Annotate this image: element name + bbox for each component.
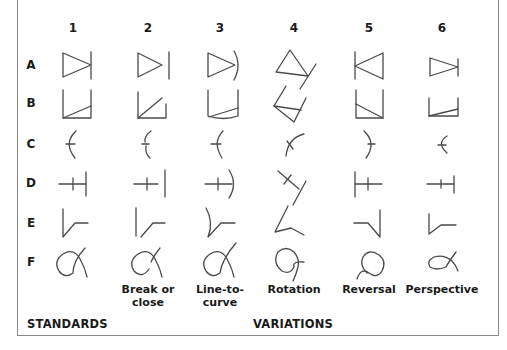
shape-e4-angle-rotated-icon [264, 204, 324, 244]
caption-reversal: Reversal [329, 283, 409, 296]
shape-f2-loop-break-icon [118, 243, 178, 283]
section-label-standards: STANDARDS [27, 317, 108, 331]
column-header-3: 3 [205, 21, 235, 35]
shape-b4-box-diagonal-rotated-icon [264, 84, 324, 124]
shape-c4-arc-tick-rotated-icon [264, 125, 324, 165]
shape-a3-triangle-curve-icon [190, 46, 250, 86]
shape-d4-cross-bar-rotated-icon [264, 164, 324, 204]
caption-break-or-close: Break or close [108, 283, 188, 309]
caption-line: Line-to- [180, 283, 260, 296]
shape-b1-box-diagonal-icon [43, 84, 103, 124]
section-label-variations: VARIATIONS [253, 317, 333, 331]
row-header-f: F [24, 255, 38, 269]
shape-b2-box-diagonal-break-icon [118, 84, 178, 124]
shape-c6-arc-tick-perspective-icon [412, 125, 472, 165]
row-header-b: B [24, 96, 38, 110]
shape-c3-arc-tick-curve-icon [190, 125, 250, 165]
shape-c2-arc-tick-break-icon [118, 125, 178, 165]
shape-a4-triangle-rotated-icon [264, 46, 324, 86]
caption-line-to-curve: Line-to- curve [180, 283, 260, 309]
shape-d6-cross-bar-perspective-icon [412, 164, 472, 204]
shape-b6-box-diagonal-perspective-icon [412, 84, 472, 124]
column-header-4: 4 [279, 21, 309, 35]
row-header-a: A [24, 58, 38, 72]
shape-e6-angle-perspective-icon [412, 204, 472, 244]
row-header-c: C [24, 137, 38, 151]
shape-e3-angle-curve-icon [190, 204, 250, 244]
caption-line: curve [180, 296, 260, 309]
row-header-e: E [24, 216, 38, 230]
caption-perspective: Perspective [402, 283, 482, 296]
shape-e2-angle-break-icon [118, 204, 178, 244]
column-header-5: 5 [354, 21, 384, 35]
shape-e1-angle-icon [43, 204, 103, 244]
column-header-1: 1 [58, 21, 88, 35]
shape-d5-cross-bar-reversed-icon [339, 164, 399, 204]
shape-d3-cross-bar-curve-icon [190, 164, 250, 204]
shape-d1-cross-bar-icon [43, 164, 103, 204]
shape-a2-triangle-bar-break-icon [118, 46, 178, 86]
caption-line: Break or [108, 283, 188, 296]
caption-rotation: Rotation [254, 283, 334, 296]
shape-b5-box-diagonal-reversed-icon [339, 84, 399, 124]
shape-c5-arc-tick-reversed-icon [339, 125, 399, 165]
caption-line: close [108, 296, 188, 309]
shape-b3-box-diagonal-curve-icon [190, 84, 250, 124]
shape-f5-loop-reversed-icon [339, 243, 399, 283]
shape-a1-triangle-bar-icon [43, 46, 103, 86]
column-header-2: 2 [133, 21, 163, 35]
column-header-6: 6 [427, 21, 457, 35]
shape-f6-loop-perspective-icon [412, 243, 472, 283]
shape-f4-loop-rotated-icon [264, 243, 324, 283]
shape-a6-triangle-perspective-icon [412, 46, 472, 86]
shape-e5-angle-reversed-icon [339, 204, 399, 244]
shape-f1-loop-icon [43, 243, 103, 283]
shape-c1-arc-tick-icon [43, 125, 103, 165]
row-header-d: D [24, 176, 38, 190]
shape-d2-cross-bar-break-icon [118, 164, 178, 204]
shape-f3-loop-curve-icon [190, 243, 250, 283]
shape-a5-triangle-reversed-icon [339, 46, 399, 86]
